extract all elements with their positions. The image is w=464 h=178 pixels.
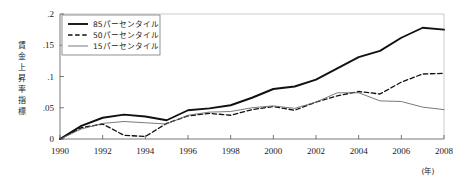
x-tick-label: 1994: [136, 146, 155, 156]
x-tick-label: 1996: [179, 146, 198, 156]
y-tick-label: .2: [47, 9, 54, 19]
y-tick-label: .05: [43, 103, 55, 113]
x-tick-label: 2000: [264, 146, 283, 156]
x-tick-label: 1992: [94, 146, 112, 156]
legend-label-1: 50パーセンタイル: [93, 31, 159, 40]
y-axis-label-char: 率: [18, 84, 26, 94]
wage-growth-line-chart: 0.05.1.15.2 1990199219941996199820002002…: [0, 0, 464, 178]
series-line-1: [60, 73, 444, 139]
x-tick-label: 1998: [222, 146, 241, 156]
y-axis-label-char: 指: [18, 95, 26, 105]
legend: 85パーセンタイル50パーセンタイル15パーセンタイル: [62, 15, 160, 55]
y-axis-label-char: 金: [18, 51, 26, 61]
legend-label-2: 15パーセンタイル: [93, 42, 159, 51]
x-axis-unit: (年): [422, 166, 435, 176]
y-axis-label: 賃金上昇率指標: [18, 40, 26, 116]
y-tick-label: 0: [50, 134, 55, 144]
y-axis-label-char: 賃: [18, 40, 26, 50]
y-tick-label: .15: [43, 40, 55, 50]
y-tick-label: .1: [47, 72, 54, 82]
y-axis-label-char: 標: [18, 106, 26, 116]
x-tick-label: 2002: [307, 146, 325, 156]
chart-canvas: 0.05.1.15.2 1990199219941996199820002002…: [0, 0, 464, 178]
y-axis-label-char: 昇: [18, 74, 26, 83]
x-tick-label: 2006: [392, 146, 411, 156]
x-tick-label: 2008: [435, 146, 454, 156]
legend-label-0: 85パーセンタイル: [93, 20, 159, 29]
y-axis-ticks: 0.05.1.15.2: [43, 9, 64, 144]
y-axis-label-char: 上: [18, 63, 26, 72]
x-tick-label: 1990: [51, 146, 70, 156]
x-axis-ticks: 1990199219941996199820002002200420062008: [51, 135, 454, 156]
x-tick-label: 2004: [350, 146, 369, 156]
